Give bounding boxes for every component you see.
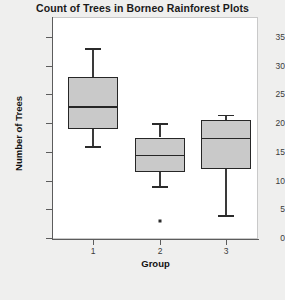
y-tick-mark	[46, 123, 52, 124]
x-axis-title: Group	[52, 258, 259, 269]
lower-whisker-cap	[85, 146, 101, 148]
y-tick-label: 20	[245, 118, 285, 128]
x-tick-label: 3	[206, 246, 246, 256]
y-axis-line	[52, 17, 53, 240]
chart-title: Count of Trees in Borneo Rainforest Plot…	[0, 2, 285, 14]
median-line	[68, 106, 118, 108]
lower-whisker	[92, 129, 94, 146]
y-axis-title: Number of Trees	[13, 74, 24, 194]
box-iqr-rect	[201, 120, 251, 169]
y-tick-label: 10	[245, 176, 285, 186]
y-tick-mark	[46, 37, 52, 38]
outlier-point	[159, 219, 162, 222]
upper-whisker-cap	[152, 123, 168, 125]
y-tick-label: 0	[245, 233, 285, 243]
lower-whisker	[159, 172, 161, 186]
y-tick-mark	[46, 152, 52, 153]
x-tick-mark	[160, 239, 161, 245]
lower-whisker	[225, 169, 227, 215]
y-tick-label: 35	[245, 32, 285, 42]
y-tick-mark	[46, 209, 52, 210]
box-iqr-rect	[68, 77, 118, 129]
upper-whisker-cap	[85, 48, 101, 50]
upper-whisker	[159, 123, 161, 137]
x-tick-mark	[226, 239, 227, 245]
y-tick-mark	[46, 181, 52, 182]
lower-whisker-cap	[152, 186, 168, 188]
x-axis-line	[52, 239, 259, 240]
upper-whisker	[92, 48, 94, 77]
upper-whisker-cap	[218, 115, 234, 117]
y-tick-mark	[46, 94, 52, 95]
y-tick-mark	[46, 238, 52, 239]
lower-whisker-cap	[218, 215, 234, 217]
box-plot-figure: Count of Trees in Borneo Rainforest Plot…	[0, 0, 285, 300]
x-tick-mark	[93, 239, 94, 245]
y-tick-label: 5	[245, 204, 285, 214]
x-tick-label: 2	[140, 246, 180, 256]
y-tick-label: 15	[245, 147, 285, 157]
y-tick-label: 30	[245, 61, 285, 71]
median-line	[135, 155, 185, 157]
median-line	[201, 138, 251, 140]
x-tick-label: 1	[73, 246, 113, 256]
y-tick-label: 25	[245, 89, 285, 99]
y-tick-mark	[46, 66, 52, 67]
